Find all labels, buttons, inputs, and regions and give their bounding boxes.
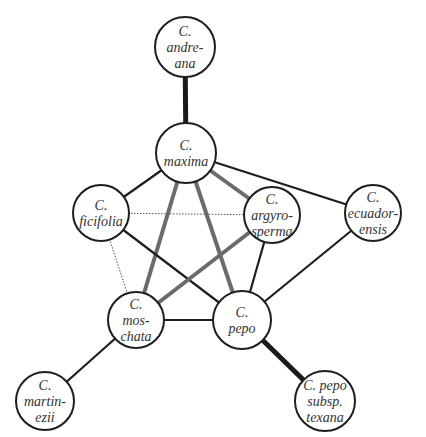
node-label-line: ezii: [35, 410, 55, 425]
node-label-line: pepo: [227, 321, 255, 336]
node-label-line: C.: [39, 378, 52, 393]
node-label-line: argyro-: [251, 208, 293, 223]
node-label-line: C.: [367, 190, 380, 205]
node-label-line: mos-: [122, 313, 150, 328]
node-moschata: C.mos-chata: [108, 292, 164, 348]
node-circle: [213, 291, 271, 349]
node-label-line: C.: [95, 198, 108, 213]
node-label-line: andre-: [167, 40, 204, 55]
node-pepo: C.pepo: [213, 291, 271, 349]
node-label-line: ficifolia: [79, 214, 123, 229]
node-label-line: ensis: [359, 222, 388, 237]
node-circle: [156, 123, 216, 183]
node-label-line: C.: [130, 297, 143, 312]
node-martinezii: C.martin-ezii: [16, 372, 74, 430]
node-label-line: C.: [179, 24, 192, 39]
node-label-line: ana: [175, 56, 196, 71]
node-ficifolia: C.ficifolia: [73, 185, 129, 241]
node-label-line: subsp.: [307, 394, 342, 409]
node-label-line: ecuador-: [348, 206, 399, 221]
node-texana: C. peposubsp.texana: [295, 371, 355, 431]
node-ecuadorensis: C.ecuador-ensis: [345, 185, 401, 241]
cucurbita-network-diagram: C.andre-anaC.maximaC.ficifoliaC.argyro-s…: [0, 0, 426, 437]
node-label-line: martin-: [24, 394, 66, 409]
node-label-line: sperma: [251, 224, 292, 239]
node-argyrosperma: C.argyro-sperma: [244, 187, 300, 243]
node-label-line: C.: [236, 305, 249, 320]
node-circle: [73, 185, 129, 241]
node-label-line: texana: [306, 410, 343, 425]
node-label-line: C.: [180, 138, 193, 153]
node-label-line: C. pepo: [303, 378, 347, 393]
node-label-line: C.: [266, 192, 279, 207]
node-andreana: C.andre-ana: [155, 17, 215, 77]
node-maxima: C.maxima: [156, 123, 216, 183]
node-label-line: chata: [120, 329, 151, 344]
node-label-line: maxima: [164, 154, 208, 169]
